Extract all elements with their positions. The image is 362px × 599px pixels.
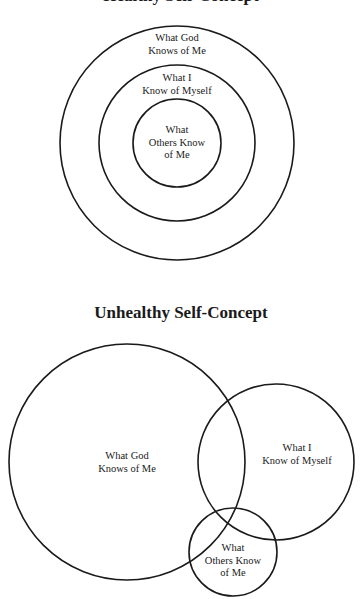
label-line: What God bbox=[98, 450, 156, 463]
label-line: What God bbox=[148, 32, 206, 45]
label-line: What bbox=[149, 124, 205, 137]
label-line: What I bbox=[142, 72, 211, 85]
unhealthy-self-label: What I Know of Myself bbox=[262, 442, 331, 467]
label-line: Others Know bbox=[205, 555, 261, 568]
label-line: What bbox=[205, 542, 261, 555]
label-line: Know of Myself bbox=[262, 455, 331, 468]
label-line: Knows of Me bbox=[98, 463, 156, 476]
label-line: Know of Myself bbox=[142, 85, 211, 98]
healthy-others-label: What Others Know of Me bbox=[149, 124, 205, 162]
healthy-self-label: What I Know of Myself bbox=[142, 72, 211, 97]
unhealthy-others-label: What Others Know of Me bbox=[205, 542, 261, 580]
unhealthy-title: Unhealthy Self-Concept bbox=[0, 303, 362, 323]
label-line: Others Know bbox=[149, 137, 205, 150]
label-line: What I bbox=[262, 442, 331, 455]
unhealthy-god-label: What God Knows of Me bbox=[98, 450, 156, 475]
label-line: of Me bbox=[149, 149, 205, 162]
label-line: of Me bbox=[205, 567, 261, 580]
healthy-god-label: What God Knows of Me bbox=[148, 32, 206, 57]
label-line: Knows of Me bbox=[148, 45, 206, 58]
